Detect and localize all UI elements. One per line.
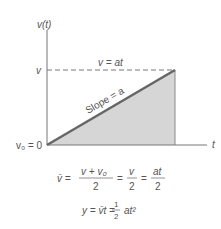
eq1-equals: = — [117, 173, 123, 184]
eq2-lhs: y = v̄t = — [81, 205, 115, 216]
displacement-equation: y = v̄t = 1 2 at² — [81, 200, 136, 221]
eq1-frac2-den: 2 — [129, 181, 135, 192]
average-velocity-equation: v̄ = v + v₀ 2 = v 2 = at 2 — [57, 166, 165, 192]
eq1-frac3-den: 2 — [155, 181, 161, 192]
eq1-equals-2: = — [141, 173, 147, 184]
eq1-frac2-num: v — [129, 166, 135, 177]
eq2-frac-den: 2 — [114, 212, 119, 221]
eq1-frac1-den: 2 — [93, 181, 99, 192]
eq1-lhs: v̄ = — [57, 173, 71, 184]
y-axis-label: v(t) — [37, 19, 51, 30]
eq2-rhs: at² — [124, 205, 136, 216]
eq1-frac3-num: at — [153, 166, 163, 177]
dashed-line-label: v = at — [98, 57, 124, 68]
eq2-frac-num: 1 — [114, 200, 119, 209]
eq1-frac1-num: v + v₀ — [81, 166, 107, 177]
v-level-label: v — [36, 65, 42, 76]
origin-label: v₀ = 0 — [16, 140, 43, 151]
x-axis-label: t — [212, 139, 216, 150]
velocity-time-diagram: v(t) t v v₀ = 0 v = at Slope = a v̄ = v … — [0, 0, 221, 229]
